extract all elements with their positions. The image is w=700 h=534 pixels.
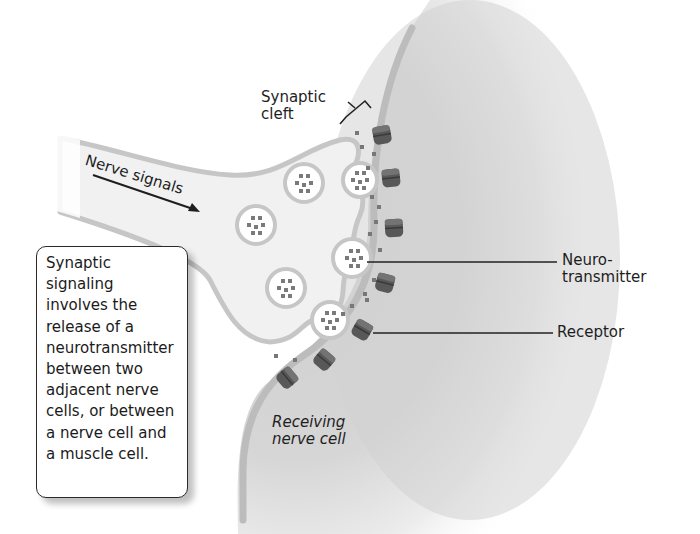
receptor-label: Receptor	[557, 324, 624, 341]
receiving-nerve-cell-label: Receiving nerve cell	[272, 414, 346, 448]
synaptic-cleft-label: Synaptic cleft	[261, 89, 326, 123]
callout-text: Synaptic signaling involves the release …	[46, 253, 187, 465]
explanation-callout: Synaptic signaling involves the release …	[36, 246, 188, 498]
neurotransmitter-label: Neuro- transmitter	[562, 252, 647, 286]
